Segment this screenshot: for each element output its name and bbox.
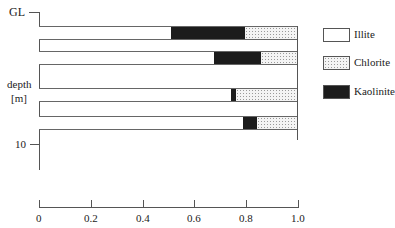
x-tick-0.2 [91,200,92,208]
bar-2-illite [39,52,214,64]
bar-3-chlorite [236,89,297,101]
bar-layer-3 [39,88,297,102]
bar-1-kaolinite [171,27,246,39]
x-tick-label-0.2: 0.2 [84,213,98,224]
legend-swatch-illite [323,28,350,42]
x-axis [39,207,298,208]
depth-10-label: 10 [15,139,26,150]
x-tick-label-0.8: 0.8 [239,213,253,224]
depth-unit-label: [m] [11,93,27,104]
right-boundary [297,26,298,140]
x-tick-label-0.6: 0.6 [187,213,201,224]
x-tick-label-1.0: 1.0 [291,213,305,224]
bar-4-chlorite [257,117,297,129]
depth-10-tick [30,144,39,145]
legend-label-chlorite: Chlorite [354,57,390,68]
bar-layer-4 [39,116,297,130]
x-tick-0.8 [246,200,247,208]
bar-1-illite [39,27,171,39]
legend-label-illite: Illite [354,29,375,40]
bar-3-illite [39,89,231,101]
gl-label: GL [9,6,25,18]
bar-layer-2 [39,51,297,65]
bar-2-chlorite [261,52,297,64]
x-tick-0 [39,200,40,208]
bar-layer-1 [39,26,297,40]
legend-swatch-chlorite [323,56,350,70]
x-tick-0.6 [194,200,195,208]
bar-1-chlorite [245,27,297,39]
x-tick-1.0 [298,200,299,208]
legend-label-kaolinite: Kaolinite [354,86,395,97]
x-tick-0.4 [143,200,144,208]
legend-swatch-kaolinite [323,85,350,99]
depth-axis-label: depth [7,79,31,90]
x-tick-label-0: 0 [36,213,42,224]
gl-tick [29,12,39,13]
bar-2-kaolinite [214,52,260,64]
bar-4-kaolinite [243,117,257,129]
x-tick-label-0.4: 0.4 [136,213,150,224]
bar-4-illite [39,117,243,129]
